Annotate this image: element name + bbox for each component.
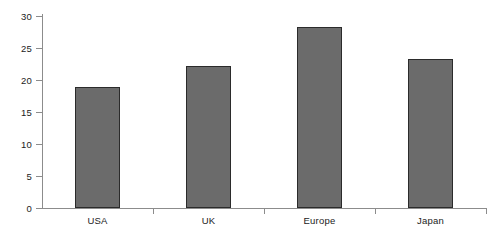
bar-usa: [75, 87, 120, 208]
y-axis-tick: [36, 112, 42, 113]
bar-chart: 051015202530 USAUKEuropeJapan: [0, 0, 500, 240]
x-axis-tick: [486, 209, 487, 214]
x-axis-tick: [375, 209, 376, 214]
bar-europe: [297, 27, 342, 208]
bar-japan: [408, 59, 453, 208]
x-axis-label-usa: USA: [42, 215, 153, 226]
y-axis-tick: [36, 176, 42, 177]
x-axis-label-europe: Europe: [264, 215, 375, 226]
y-axis-tick-label: 30: [8, 11, 32, 22]
y-axis-tick: [36, 80, 42, 81]
y-axis-tick: [36, 16, 42, 17]
x-axis-label-japan: Japan: [375, 215, 486, 226]
x-axis-label-uk: UK: [153, 215, 264, 226]
y-axis-tick: [36, 144, 42, 145]
y-axis-tick-label: 5: [8, 171, 32, 182]
x-axis-tick: [264, 209, 265, 214]
y-axis-tick: [36, 208, 42, 209]
y-axis-tick: [36, 48, 42, 49]
x-axis-tick: [153, 209, 154, 214]
y-axis-tick-label: 20: [8, 75, 32, 86]
y-axis-tick-label: 25: [8, 43, 32, 54]
y-axis-tick-label: 0: [8, 203, 32, 214]
y-axis-tick-label: 15: [8, 107, 32, 118]
y-axis-tick-label: 10: [8, 139, 32, 150]
bar-uk: [186, 66, 231, 208]
y-axis-line: [42, 14, 43, 209]
